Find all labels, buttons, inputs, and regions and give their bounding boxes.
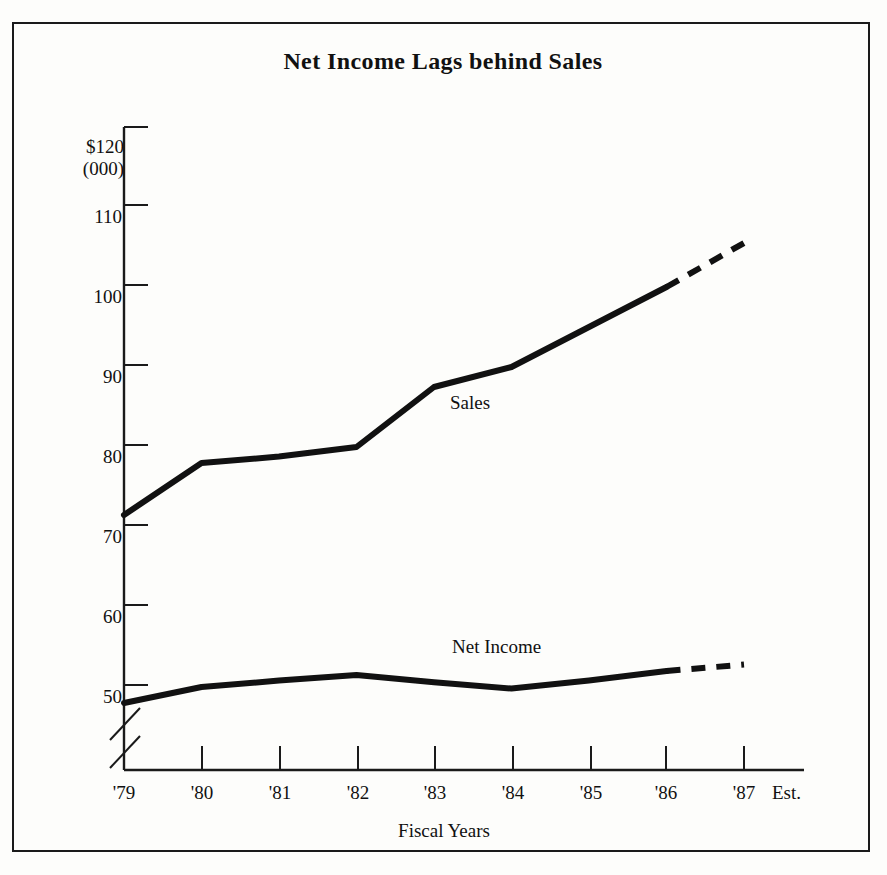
y-tick-marks bbox=[124, 127, 148, 685]
series-line-sales bbox=[124, 287, 667, 515]
chart-page: Net Income Lags behind Sales $120 (000) … bbox=[0, 0, 887, 875]
series-line-sales-forecast bbox=[667, 243, 745, 287]
series-line-net-income-forecast bbox=[667, 665, 745, 671]
series-line-net-income bbox=[124, 671, 667, 703]
plot-area bbox=[14, 24, 872, 854]
x-tick-marks bbox=[124, 746, 744, 770]
figure-frame: Net Income Lags behind Sales $120 (000) … bbox=[12, 22, 870, 852]
